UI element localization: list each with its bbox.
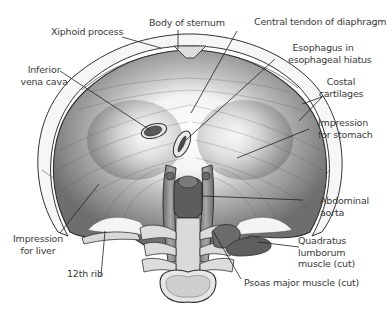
label-abdominal-aorta: Abdominal aorta [320, 195, 369, 218]
label-quadratus-lumborum: Quadratus lumborum muscle (cut) [298, 235, 355, 270]
label-esophagus: Esophagus in esophageal hiatus [288, 42, 358, 65]
label-costal-cartilages: Costal cartilages [316, 76, 366, 99]
label-inferior-vena-cava: Inferior vena cava [15, 64, 73, 87]
label-12th-rib: 12th rib [67, 268, 103, 280]
label-impression-for-stomach: Impression for stomach [318, 117, 373, 140]
label-central-tendon: Central tendon of diaphragm [254, 16, 386, 28]
label-xiphoid-process: Xiphoid process [51, 26, 123, 38]
label-body-of-sternum: Body of sternum [149, 17, 225, 29]
label-psoas-major: Psoas major muscle (cut) [244, 277, 359, 289]
label-impression-for-liver: Impression for liver [10, 233, 66, 256]
